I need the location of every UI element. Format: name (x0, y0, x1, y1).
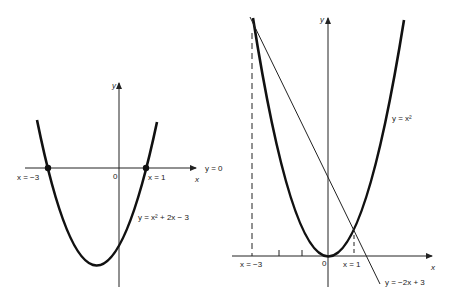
left-root-right-label: x = 1 (148, 173, 166, 182)
right-x-axis-label: x (430, 263, 436, 272)
right-graph: y x 0 x = −3 x = 1 y = x² y = −2x + 3 (232, 15, 436, 287)
right-y-axis-label: y (319, 15, 325, 24)
left-curve-label: y = x² + 2x − 3 (138, 213, 189, 222)
left-root-point-left (45, 165, 51, 171)
right-origin-label: 0 (322, 259, 327, 268)
left-line-label: y = 0 (205, 164, 223, 173)
left-root-left-label: x = −3 (17, 173, 40, 182)
right-curve-label: y = x² (392, 114, 412, 123)
right-intersect-left-label: x = −3 (240, 260, 263, 269)
left-x-axis-label: x (194, 175, 200, 184)
diagram: y x y = 0 0 x = −3 x = 1 y = x² + 2x − 3… (0, 0, 454, 305)
left-origin-label: 0 (113, 172, 118, 181)
left-root-point-right (143, 165, 149, 171)
left-parabola (37, 120, 157, 266)
right-line (250, 17, 380, 284)
right-line-label: y = −2x + 3 (385, 278, 425, 287)
left-graph: y x y = 0 0 x = −3 x = 1 y = x² + 2x − 3 (17, 81, 223, 287)
left-y-axis-label: y (111, 81, 117, 90)
right-intersect-right-label: x = 1 (343, 260, 361, 269)
